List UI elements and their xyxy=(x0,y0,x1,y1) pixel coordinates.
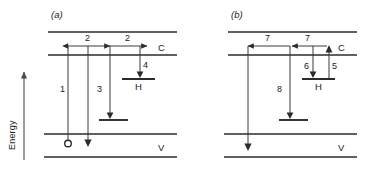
panel-b-transition-7a-label: 7 xyxy=(265,33,270,43)
panel-b-label: (b) xyxy=(231,9,243,20)
panel-b-transition-8-label: 8 xyxy=(277,84,282,94)
panel-a-transition-1-label: 1 xyxy=(60,84,65,94)
panel-b-conduction-band-label: C xyxy=(338,42,345,53)
energy-axis: Energy xyxy=(7,72,24,160)
panel-a-transition-4: 4 xyxy=(137,46,148,78)
panel-a-transition-4-label: 4 xyxy=(143,60,148,70)
panel-a-recombination-line xyxy=(84,46,91,147)
energy-band-diagram-figure: Energy (a) C V H 1 2 xyxy=(0,0,371,178)
panel-a-transition-2b-label: 2 xyxy=(125,33,130,43)
panel-b-recombination-line xyxy=(244,46,251,151)
panel-a-transition-1: 1 xyxy=(60,46,71,147)
panel-b-transition-7a: 7 xyxy=(248,33,290,46)
panel-a-transition-2a: 2 xyxy=(68,33,110,46)
panel-b-transition-8: 8 xyxy=(277,46,308,120)
panel-a: (a) C V H 1 2 xyxy=(44,9,177,157)
panel-b-valence-band-label: V xyxy=(338,142,345,153)
panel-b-transition-5: 5 xyxy=(326,45,337,78)
panel-a-transition-2a-label: 2 xyxy=(85,33,90,43)
panel-b: (b) C V H 7 7 xyxy=(224,9,357,157)
panel-b-transition-5-label: 5 xyxy=(332,61,337,71)
panel-b-transition-6: 6 xyxy=(304,46,316,78)
panel-a-conduction-band-label: C xyxy=(158,42,165,53)
energy-axis-label: Energy xyxy=(7,120,17,150)
panel-a-valence-band-label: V xyxy=(158,142,165,153)
panel-a-transition-3: 3 xyxy=(97,46,128,120)
panel-a-h-sublevel-label: H xyxy=(135,81,142,92)
panel-a-transition-3-label: 3 xyxy=(97,84,102,94)
panel-b-h-sublevel-label: H xyxy=(315,81,322,92)
panel-a-label: (a) xyxy=(51,9,63,20)
panel-b-transition-7b-label: 7 xyxy=(305,33,310,43)
panel-b-transition-7b: 7 xyxy=(292,33,327,46)
hole-marker xyxy=(65,140,72,147)
panel-a-transition-2b: 2 xyxy=(110,33,147,46)
panel-b-transition-6-label: 6 xyxy=(304,61,309,71)
figure-canvas: Energy (a) C V H 1 2 xyxy=(0,0,371,178)
